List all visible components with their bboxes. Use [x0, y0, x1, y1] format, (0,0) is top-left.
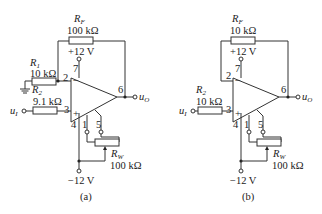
vneg-label-a: −12 V	[68, 175, 95, 186]
circuit-diagrams: RF 100 kΩ +12 V 7 − + 2 3 R1 10 kΩ R2 9.…	[0, 0, 322, 214]
plus-sign-a: +	[73, 108, 79, 119]
pin5-a: 5	[96, 119, 101, 130]
wiper-arrow-icon-b	[265, 146, 269, 150]
pin5-b: 5	[258, 119, 263, 130]
ground-icon-a	[20, 81, 30, 93]
pin1-a: 1	[82, 119, 87, 130]
vneg-terminal-a	[77, 169, 81, 173]
pin2-b: 2	[226, 70, 231, 81]
input-terminal-b[interactable]	[191, 109, 195, 113]
vpos-label-a: +12 V	[68, 46, 95, 57]
pin3-b: 3	[226, 104, 231, 115]
output-terminal-a[interactable]	[133, 95, 137, 99]
pin3-a: 3	[64, 104, 69, 115]
r2-value-a: 9.1 kΩ	[33, 96, 62, 107]
r1-value-a: 10 kΩ	[30, 68, 56, 79]
pin7-b: 7	[235, 63, 240, 74]
vpos-terminal-a	[77, 57, 81, 61]
circuit-a: RF 100 kΩ +12 V 7 − + 2 3 R1 10 kΩ R2 9.…	[10, 13, 149, 203]
vneg-label-b: −12 V	[230, 175, 257, 186]
wiper-wire-a	[79, 148, 105, 161]
rf-value-a: 100 kΩ	[67, 25, 99, 36]
caption-a: (a)	[80, 191, 92, 203]
junction-a	[56, 79, 59, 82]
circuit-b: RF 10 kΩ +12 V 7 − + 2 3 R2 10 kΩ uI 6 u…	[179, 13, 312, 203]
resistor-rf-a	[69, 37, 93, 44]
plus-sign-b: +	[235, 108, 241, 119]
potentiometer-rw-b	[257, 139, 281, 146]
rw-value-a: 100 kΩ	[110, 160, 142, 171]
output-label-a: uO	[139, 91, 149, 104]
wiper-wire-b	[241, 148, 267, 161]
resistor-r2-a	[33, 107, 57, 114]
output-terminal-b[interactable]	[296, 95, 300, 99]
minus-sign-a: −	[73, 75, 79, 86]
input-label-a: uI	[10, 105, 18, 118]
rw-value-b: 100 kΩ	[272, 160, 304, 171]
pin1-terminal-b	[247, 130, 251, 134]
pin1-b: 1	[244, 119, 249, 130]
input-label-b: uI	[179, 105, 187, 118]
wiper-arrow-icon-a	[103, 146, 107, 150]
vneg-terminal-b	[239, 169, 243, 173]
pin5-terminal-a	[99, 130, 103, 134]
pin4-b: 4	[233, 119, 239, 130]
rf-value-b: 10 kΩ	[230, 25, 256, 36]
vpos-label-b: +12 V	[230, 46, 257, 57]
minus-sign-b: −	[235, 75, 241, 86]
pin6-b: 6	[281, 84, 286, 95]
output-junction-b	[286, 95, 289, 98]
pin1-terminal-a	[85, 130, 89, 134]
pin7-a: 7	[73, 63, 78, 74]
pin4-a: 4	[71, 119, 77, 130]
pin5-terminal-b	[261, 130, 265, 134]
r2-value-b: 10 kΩ	[196, 96, 222, 107]
output-junction-a	[123, 95, 126, 98]
vpos-terminal-b	[239, 57, 243, 61]
potentiometer-rw-a	[95, 139, 119, 146]
caption-b: (b)	[242, 191, 255, 203]
output-label-b: uO	[302, 91, 312, 104]
resistor-r2-b	[198, 107, 222, 114]
pin6-a: 6	[118, 84, 123, 95]
resistor-rf-b	[231, 37, 255, 44]
input-terminal-a[interactable]	[22, 109, 26, 113]
